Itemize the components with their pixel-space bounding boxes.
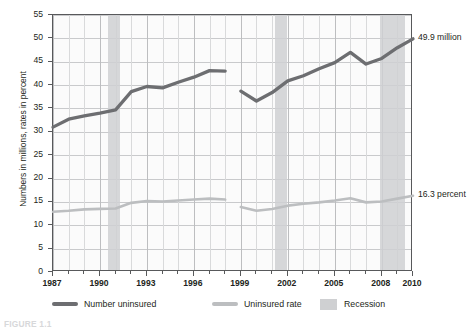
series-lines <box>53 15 413 272</box>
x-tick-mark <box>287 271 288 276</box>
x-tick-label: 2005 <box>316 278 352 288</box>
y-tick-mark <box>48 37 52 38</box>
x-tick-label: 1990 <box>81 278 117 288</box>
x-tick-mark <box>365 271 366 274</box>
y-axis-title: Numbers in millions, rates in percent <box>18 34 28 244</box>
x-tick-mark <box>68 271 69 274</box>
y-tick-label: 15 <box>21 195 43 205</box>
x-tick-mark <box>99 271 100 276</box>
y-tick-label: 40 <box>21 79 43 89</box>
legend-label: Number uninsured <box>84 299 156 309</box>
x-tick-mark <box>146 271 147 276</box>
legend-item[interactable]: Recession <box>320 296 385 312</box>
x-tick-label: 2002 <box>269 278 305 288</box>
x-tick-label: 1987 <box>34 278 70 288</box>
x-tick-mark <box>193 271 194 276</box>
legend-item[interactable]: Uninsured rate <box>212 296 302 312</box>
series-line-uninsured-rate <box>53 199 225 212</box>
y-tick-label: 10 <box>21 219 43 229</box>
series-line-number-uninsured <box>53 71 225 128</box>
x-tick-mark <box>162 271 163 274</box>
x-tick-mark <box>115 271 116 274</box>
x-tick-mark <box>255 271 256 274</box>
y-tick-label: 30 <box>21 125 43 135</box>
x-tick-mark <box>209 271 210 274</box>
y-tick-label: 0 <box>21 266 43 276</box>
uninsured-rate-end-label: 16.3 percent <box>418 189 466 199</box>
x-tick-label: 1999 <box>222 278 258 288</box>
x-tick-label: 1993 <box>128 278 164 288</box>
x-tick-mark <box>271 271 272 274</box>
legend-label: Uninsured rate <box>244 299 302 309</box>
plot-area <box>52 14 412 271</box>
x-tick-mark <box>224 271 225 274</box>
x-tick-mark <box>130 271 131 274</box>
y-tick-label: 20 <box>21 172 43 182</box>
x-tick-mark <box>381 271 382 276</box>
recession-swatch-icon <box>320 299 337 310</box>
figure-uninsured-chart: Numbers in millions, rates in percent 05… <box>0 0 474 328</box>
x-tick-label: 1996 <box>175 278 211 288</box>
y-tick-label: 55 <box>21 9 43 19</box>
y-axis-title-container: Numbers in millions, rates in percent <box>0 0 24 280</box>
x-tick-mark <box>83 271 84 274</box>
y-tick-mark <box>48 84 52 85</box>
y-tick-label: 35 <box>21 102 43 112</box>
figure-caption: FIGURE 1.1 <box>4 319 52 328</box>
legend-item[interactable]: Number uninsured <box>52 296 156 312</box>
y-tick-mark <box>48 14 52 15</box>
y-tick-mark <box>48 61 52 62</box>
y-tick-mark <box>48 178 52 179</box>
x-tick-mark <box>52 271 53 276</box>
y-tick-mark <box>48 107 52 108</box>
line-swatch-icon <box>52 302 78 307</box>
x-tick-mark <box>334 271 335 276</box>
x-tick-mark <box>318 271 319 274</box>
x-tick-mark <box>396 271 397 274</box>
y-tick-mark <box>48 248 52 249</box>
y-tick-mark <box>48 131 52 132</box>
line-swatch-icon <box>212 302 238 307</box>
y-tick-mark <box>48 224 52 225</box>
x-tick-mark <box>177 271 178 274</box>
chart-legend: Number uninsuredUninsured rateRecession <box>52 296 412 312</box>
x-tick-mark <box>349 271 350 274</box>
x-tick-label: 2010 <box>394 278 430 288</box>
x-tick-mark <box>302 271 303 274</box>
y-tick-mark <box>48 154 52 155</box>
legend-label: Recession <box>344 299 385 309</box>
y-tick-mark <box>48 201 52 202</box>
y-tick-label: 5 <box>21 242 43 252</box>
y-tick-label: 25 <box>21 149 43 159</box>
series-line-uninsured-rate <box>241 196 413 211</box>
y-tick-label: 50 <box>21 32 43 42</box>
number-uninsured-end-label: 49.9 million <box>418 32 461 42</box>
y-tick-label: 45 <box>21 55 43 65</box>
x-tick-mark <box>240 271 241 276</box>
x-tick-mark <box>412 271 413 276</box>
series-line-number-uninsured <box>241 39 413 101</box>
